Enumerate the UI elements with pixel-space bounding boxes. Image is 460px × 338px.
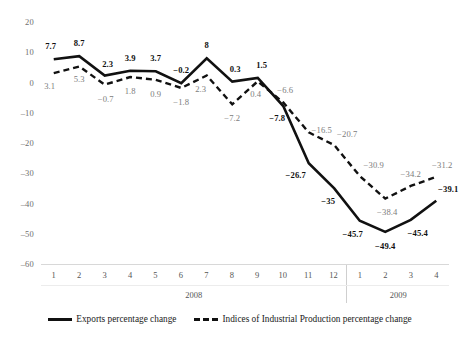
data-point-label: −7.2 (224, 113, 240, 123)
data-point-label: −20.7 (337, 129, 357, 139)
data-point-label: 3.9 (125, 53, 136, 63)
y-axis-tick-label: –60 (8, 259, 34, 269)
x-axis-tick-label: 1 (347, 265, 372, 285)
y-axis-tick-label: –30 (8, 168, 34, 178)
x-axis-tick-label: 4 (117, 265, 142, 285)
data-point-label: −38.4 (377, 207, 397, 217)
x-axis: 1234567891011121234 20082009 (41, 264, 449, 302)
y-axis-tick-label: 10 (8, 47, 34, 57)
data-point-label: −45.7 (343, 229, 363, 239)
data-point-label: 1.8 (125, 86, 136, 96)
y-axis-tick-label: –20 (8, 138, 34, 148)
data-point-label: −6.6 (277, 85, 293, 95)
y-axis-tick-label: –50 (8, 229, 34, 239)
y-axis-tick-label: 20 (8, 17, 34, 27)
data-point-label: 0.4 (250, 89, 261, 99)
data-point-label: 0.3 (230, 64, 241, 74)
data-point-label: −7.8 (269, 113, 285, 123)
legend-solid-line-icon (48, 318, 72, 321)
data-point-label: −30.9 (364, 160, 384, 170)
data-point-label: −31.2 (432, 160, 452, 170)
data-point-label: −0.7 (98, 94, 114, 104)
data-point-label: 8 (205, 40, 209, 50)
y-axis-tick-label: –40 (8, 199, 34, 209)
x-axis-tick-label: 10 (270, 265, 295, 285)
data-point-label: −1.8 (173, 97, 189, 107)
y-axis-tick-label: 0 (8, 78, 34, 88)
legend-label: Exports percentage change (76, 314, 176, 324)
data-point-label: 0.9 (150, 89, 161, 99)
data-point-label: 3.7 (150, 53, 161, 63)
data-point-label: 5.3 (74, 74, 85, 84)
x-axis-year-label: 2008 (41, 286, 347, 303)
x-axis-tick-label: 4 (424, 265, 449, 285)
x-axis-tick-label: 5 (143, 265, 168, 285)
chart-legend: Exports percentage change Indices of Ind… (0, 308, 460, 330)
legend-item-exports[interactable]: Exports percentage change (48, 314, 176, 324)
data-point-label: 1.5 (256, 60, 267, 70)
series-line-industrial-production (54, 66, 437, 198)
x-axis-month-row: 1234567891011121234 (41, 265, 449, 285)
legend-item-industrial-production[interactable]: Indices of Industrial Production percent… (194, 314, 411, 324)
data-point-label: −16.5 (312, 125, 332, 135)
x-axis-tick-label: 1 (41, 265, 66, 285)
x-axis-tick-label: 11 (295, 265, 320, 285)
x-axis-tick-label: 12 (321, 265, 347, 285)
x-axis-tick-label: 7 (194, 265, 219, 285)
x-axis-year-label: 2009 (347, 286, 449, 303)
data-point-label: 3.1 (44, 81, 55, 91)
x-axis-tick-label: 2 (66, 265, 91, 285)
data-point-label: −39.1 (438, 184, 458, 194)
data-point-label: −0.2 (173, 65, 189, 75)
y-axis-tick-label: –10 (8, 108, 34, 118)
data-point-label: 2.3 (195, 84, 206, 94)
data-point-label: −35 (321, 196, 335, 206)
x-axis-tick-label: 2 (373, 265, 398, 285)
data-point-label: 7.7 (45, 41, 56, 51)
x-axis-tick-label: 3 (398, 265, 423, 285)
legend-dashed-line-icon (194, 318, 218, 321)
data-point-label: 8.7 (74, 38, 85, 48)
x-axis-tick-label: 6 (168, 265, 193, 285)
legend-label: Indices of Industrial Production percent… (222, 314, 411, 324)
x-axis-tick-label: 3 (92, 265, 117, 285)
data-point-label: 2.3 (102, 59, 113, 69)
data-point-label: −34.2 (401, 169, 421, 179)
line-chart: 20100–10–20–30–40–50–60 7.78.72.33.93.7−… (0, 0, 460, 338)
data-point-label: −45.4 (408, 228, 428, 238)
data-point-label: −26.7 (286, 170, 306, 180)
x-axis-year-row: 20082009 (41, 285, 449, 303)
data-point-label: −49.4 (375, 241, 395, 251)
x-axis-tick-label: 8 (219, 265, 244, 285)
x-axis-tick-label: 9 (245, 265, 270, 285)
